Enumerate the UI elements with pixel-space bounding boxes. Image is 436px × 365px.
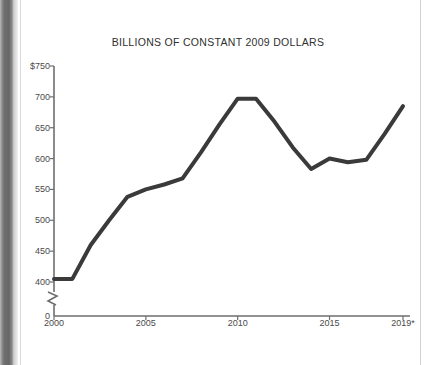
axis-break-symbol — [48, 292, 57, 305]
x-axis-tick-label: 2010 — [228, 318, 248, 328]
chart-screenshot: BILLIONS OF CONSTANT 2009 DOLLARS 400450… — [0, 0, 436, 365]
x-axis-tick-label: 2015 — [320, 318, 340, 328]
chart-plot-area — [0, 0, 436, 365]
data-series-line — [54, 99, 403, 279]
x-axis-tick-label: 2000 — [44, 318, 64, 328]
line-chart-svg — [0, 0, 436, 365]
x-axis-tick-label: 2005 — [136, 318, 156, 328]
x-axis-tick-label: 2019* — [391, 318, 415, 328]
